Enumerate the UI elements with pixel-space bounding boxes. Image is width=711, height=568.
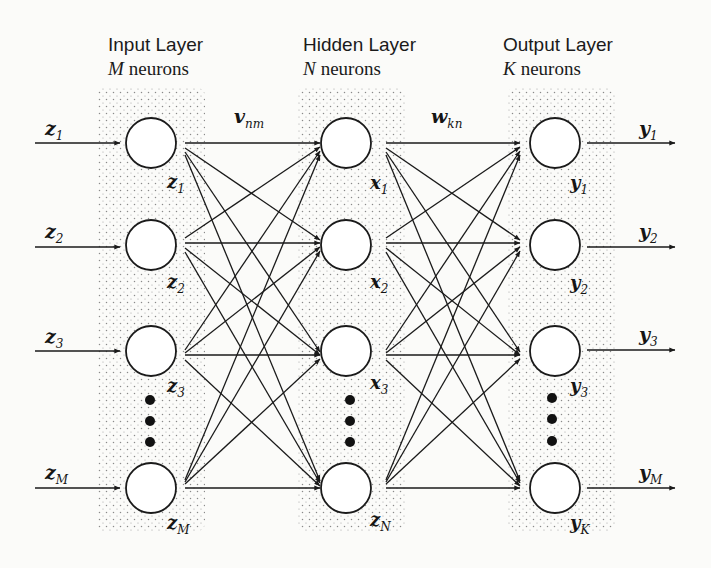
hidden-output-connections	[386, 143, 520, 488]
output-layer-title: Output Layer	[503, 34, 614, 55]
hidden-ellipsis-icon	[345, 395, 355, 447]
output-signal-label: yM	[638, 461, 663, 487]
input-neuron	[126, 220, 176, 270]
input-layer-count: Mneurons	[107, 58, 189, 79]
weight-label-w: wkn	[431, 105, 462, 131]
input-neuron	[126, 463, 176, 513]
input-neuron	[126, 118, 176, 168]
output-layer-header: Output Layer Kneurons	[502, 34, 614, 79]
output-signal-label: y2	[638, 220, 658, 246]
hidden-neuron	[321, 220, 371, 270]
output-signal-label: y3	[638, 323, 658, 349]
hidden-layer-title: Hidden Layer	[303, 34, 417, 55]
output-neuron	[530, 463, 580, 513]
input-ellipsis-icon	[145, 395, 155, 447]
input-layer-title: Input Layer	[108, 34, 204, 55]
output-neuron	[530, 220, 580, 270]
hidden-layer-header: Hidden Layer Nneurons	[302, 34, 417, 79]
input-signal-label: zM	[44, 461, 69, 487]
input-signal-label: z2	[44, 220, 63, 246]
hidden-layer-count: Nneurons	[302, 58, 381, 79]
neural-network-diagram: Input Layer Mneurons Hidden Layer Nneuro…	[0, 0, 711, 568]
output-layer-count: Kneurons	[502, 58, 581, 79]
input-signal-label: z3	[44, 325, 64, 351]
input-signal-label: z1	[44, 117, 63, 143]
hidden-neuron	[321, 118, 371, 168]
output-neuron	[530, 118, 580, 168]
input-layer-header: Input Layer Mneurons	[107, 34, 204, 79]
output-signal-label: y1	[638, 117, 658, 143]
output-ellipsis-icon	[547, 393, 557, 446]
hidden-neuron	[321, 326, 371, 376]
output-neuron	[530, 326, 580, 376]
input-neuron	[126, 326, 176, 376]
weight-label-v: vnm	[234, 105, 264, 131]
hidden-neuron	[321, 463, 371, 513]
